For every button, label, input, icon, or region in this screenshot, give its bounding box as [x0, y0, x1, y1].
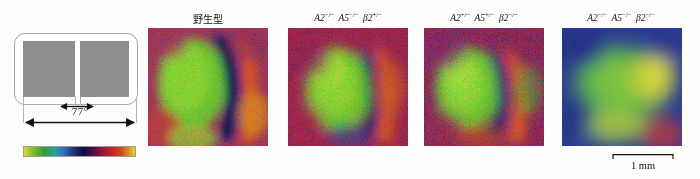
stimulus-width-arrow: [22, 118, 138, 127]
panel-label-text: 野生型: [193, 14, 223, 25]
map-noise-3: [424, 28, 544, 146]
panel-label-a2het-a5het-b2ko: A2+/− A5+/− β2−/−: [424, 11, 544, 24]
stimulus-patch-right: [80, 41, 129, 97]
genotype-gene-1: A2: [314, 13, 325, 23]
genotype-gene-2: A5: [475, 13, 486, 23]
map-noise-wildtype: [148, 28, 268, 146]
orientation-map-panel-wildtype: [148, 28, 268, 146]
orientation-map-panel-a2ko-a5ko-b2ko: [562, 28, 682, 146]
panel-label-wildtype: 野生型: [148, 11, 268, 24]
genotype-sup-2: −/−: [622, 11, 631, 19]
stimulus-patch-left: [23, 41, 75, 97]
genotype-gene-3: β2: [636, 13, 645, 23]
genotype-gene-3: β2: [499, 13, 508, 23]
orientation-colorbar-gradient: [24, 147, 135, 156]
map-noise-2: [288, 28, 408, 146]
genotype-gene-2: A5: [339, 13, 350, 23]
genotype-sup-3: +/−: [373, 11, 382, 19]
scale-bar: [612, 153, 674, 160]
panel-label-a2ko-a5ko-b2het: A2−/− A5−/− β2+/−: [288, 11, 408, 24]
orientation-map-panel-a2ko-a5ko-b2het: [288, 28, 408, 146]
genotype-gene-1: A2: [450, 13, 461, 23]
figure-root: 77° 野生型 A2−/− A5−/− β2+/− A2+/− A5+/− β2…: [0, 0, 700, 179]
genotype-gene-1: A2: [587, 13, 598, 23]
genotype-sup-1: −/−: [325, 11, 334, 19]
orientation-colorbar: [23, 146, 136, 157]
genotype-sup-2: +/−: [485, 11, 494, 19]
genotype-gene-2: A5: [612, 13, 623, 23]
genotype-sup-1: −/−: [598, 11, 607, 19]
visual-stimulus-schematic: [14, 33, 138, 105]
scale-bar-label: 1 mm: [597, 160, 689, 171]
genotype-sup-2: −/−: [349, 11, 358, 19]
map-noise-4: [562, 28, 682, 146]
panel-label-a2ko-a5ko-b2ko: A2−/− A5−/− β2−/−: [558, 11, 684, 24]
genotype-sup-1: +/−: [461, 11, 470, 19]
stimulus-width-label: 77°: [22, 105, 138, 117]
genotype-sup-3: −/−: [509, 11, 518, 19]
genotype-sup-3: −/−: [646, 11, 655, 19]
genotype-gene-3: β2: [363, 13, 372, 23]
orientation-map-panel-a2het-a5het-b2ko: [424, 28, 544, 146]
